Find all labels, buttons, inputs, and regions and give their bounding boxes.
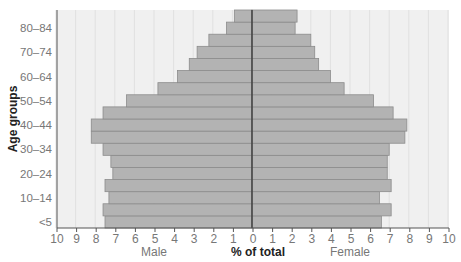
- x-tick-label: 8: [406, 232, 413, 246]
- female-bar-50–54: [252, 95, 374, 107]
- x-tick-label: 2: [289, 232, 296, 246]
- male-bar-65–69: [189, 58, 252, 70]
- age-group-label: 50–54: [20, 95, 53, 107]
- x-tick-label: 7: [387, 232, 394, 246]
- x-tick-label: 0: [250, 232, 257, 246]
- age-group-label: 30–34: [20, 143, 53, 155]
- male-bar-25–29: [111, 155, 252, 167]
- age-group-label: 20–24: [20, 168, 53, 180]
- male-bar-35–39: [91, 131, 252, 143]
- x-tick-label: 1: [269, 232, 276, 246]
- y-axis-title: Age groups: [6, 85, 20, 152]
- y-axis-labels: <510–1420–2430–3440–4450–5460–6470–7480–…: [20, 22, 53, 228]
- x-tick-label: 3: [308, 232, 315, 246]
- x-tick-label: 3: [191, 232, 198, 246]
- x-tick-label: 10: [50, 232, 64, 246]
- x-tick-label: 6: [367, 232, 374, 246]
- female-bar-35–39: [252, 131, 405, 143]
- female-bar-70–74: [252, 46, 315, 58]
- x-tick-label: 5: [152, 232, 159, 246]
- x-axis-ticks: 10987654321012345678910: [50, 228, 456, 246]
- male-bar-60–64: [178, 71, 252, 83]
- age-group-label: 70–74: [20, 46, 53, 58]
- x-tick-label: 8: [93, 232, 100, 246]
- male-bar-85+: [234, 10, 252, 22]
- x-tick-label: 5: [348, 232, 355, 246]
- female-side-label: Female: [330, 245, 370, 259]
- population-pyramid-chart: 10987654321012345678910 <510–1420–2430–3…: [0, 0, 461, 262]
- x-tick-label: 9: [426, 232, 433, 246]
- female-bar-55–59: [252, 83, 344, 95]
- age-group-label: <5: [39, 216, 52, 228]
- age-group-label: 40–44: [20, 119, 53, 131]
- female-bar-80–84: [252, 22, 295, 34]
- male-bar-15–19: [105, 180, 252, 192]
- x-tick-label: 7: [112, 232, 119, 246]
- female-bar-5–9: [252, 204, 391, 216]
- x-tick-label: 6: [132, 232, 139, 246]
- male-bar-10–14: [109, 192, 252, 204]
- male-bar-50–54: [127, 95, 252, 107]
- female-bar-15–19: [252, 180, 391, 192]
- female-bar-25–29: [252, 155, 387, 167]
- female-bar-85+: [252, 10, 297, 22]
- male-bar-20–24: [113, 167, 252, 179]
- male-bar-40–44: [91, 119, 252, 131]
- x-tick-label: 10: [442, 232, 456, 246]
- male-bar-75–79: [209, 34, 252, 46]
- x-tick-label: 9: [73, 232, 80, 246]
- male-bar-<5: [105, 216, 252, 228]
- age-group-label: 60–64: [20, 71, 53, 83]
- female-bar-60–64: [252, 71, 330, 83]
- age-group-label: 80–84: [20, 22, 53, 34]
- female-bar-<5: [252, 216, 381, 228]
- female-bar-45–49: [252, 107, 393, 119]
- female-bar-40–44: [252, 119, 407, 131]
- x-tick-label: 4: [328, 232, 335, 246]
- female-bar-65–69: [252, 58, 319, 70]
- x-axis-title: % of total: [231, 245, 285, 259]
- female-bar-20–24: [252, 167, 387, 179]
- x-tick-label: 2: [210, 232, 217, 246]
- male-bar-45–49: [103, 107, 252, 119]
- female-bar-10–14: [252, 192, 379, 204]
- male-side-label: Male: [141, 245, 167, 259]
- male-bar-30–34: [103, 143, 252, 155]
- x-tick-label: 1: [230, 232, 237, 246]
- female-bar-30–34: [252, 143, 389, 155]
- male-bar-80–84: [227, 22, 252, 34]
- male-bar-55–59: [158, 83, 252, 95]
- x-tick-label: 4: [171, 232, 178, 246]
- female-bar-75–79: [252, 34, 311, 46]
- male-bar-70–74: [197, 46, 252, 58]
- age-group-label: 10–14: [20, 192, 53, 204]
- male-bar-5–9: [103, 204, 252, 216]
